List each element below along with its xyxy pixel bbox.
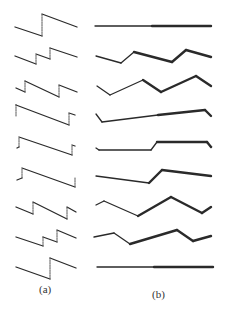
caption-a: (a) [39, 283, 51, 295]
waveform-a-row-6 [17, 168, 75, 187]
thin-segment [96, 201, 104, 205]
thin-segment [114, 233, 130, 244]
thick-segment [177, 230, 193, 241]
thin-segment [110, 80, 143, 95]
solid-segment [57, 230, 76, 238]
solid-segment [67, 207, 76, 212]
thick-segment [172, 50, 186, 62]
polyline-b-row-6 [96, 170, 211, 183]
polyline-b-row-4 [96, 110, 211, 122]
thin-segment [96, 56, 121, 63]
thin-segment [121, 52, 134, 63]
thick-segment [171, 197, 202, 213]
panel-a-waveforms [15, 14, 77, 279]
thick-segment [158, 110, 205, 115]
solid-segment [25, 81, 59, 97]
solid-segment [33, 202, 67, 219]
thick-segment [186, 50, 211, 57]
thick-segment [130, 230, 177, 244]
polyline-b-row-8 [94, 230, 211, 244]
thick-segment [196, 76, 211, 86]
solid-segment [50, 48, 77, 57]
solid-segment [17, 178, 22, 180]
waveform-a-row-7 [16, 202, 76, 219]
polyline-b-row-3 [97, 76, 211, 95]
solid-segment [22, 168, 75, 187]
solid-segment [15, 56, 36, 64]
waveform-a-row-3 [16, 81, 77, 97]
solid-segment [15, 27, 42, 36]
solid-segment [43, 237, 57, 242]
thick-segment [138, 197, 171, 216]
thick-segment [205, 110, 211, 116]
thin-segment [102, 115, 158, 122]
thick-segment [161, 76, 196, 92]
panel-b-polylines [94, 26, 213, 267]
waveform-a-row-8 [16, 230, 76, 246]
polyline-b-row-7 [96, 197, 211, 216]
solid-segment [42, 14, 77, 27]
waveform-a-row-9 [16, 258, 76, 279]
thick-segment [149, 170, 162, 183]
thick-segment [207, 142, 211, 147]
thick-segment [162, 170, 211, 176]
thick-segment [143, 80, 161, 92]
polyline-b-row-5 [96, 142, 211, 150]
waveform-a-row-2 [15, 48, 77, 64]
thin-segment [96, 114, 102, 122]
thin-segment [94, 233, 114, 237]
solid-segment [16, 207, 33, 214]
solid-segment [69, 113, 75, 115]
caption-b: (b) [152, 288, 165, 300]
solid-segment [16, 88, 25, 92]
solid-segment [36, 54, 50, 59]
thick-segment [193, 236, 211, 241]
solid-segment [16, 237, 43, 246]
solid-segment [50, 258, 76, 268]
thin-segment [97, 86, 110, 95]
polyline-b-row-2 [96, 50, 211, 63]
solid-segment [59, 85, 77, 92]
thin-segment [96, 176, 149, 183]
thick-segment [202, 207, 211, 213]
solid-segment [16, 267, 50, 279]
figure-canvas [0, 0, 225, 313]
thick-segment [134, 52, 172, 62]
thin-segment [104, 201, 138, 216]
thin-segment [151, 142, 157, 150]
solid-segment [19, 137, 72, 155]
waveform-a-row-1 [15, 14, 77, 36]
solid-segment [16, 105, 69, 125]
waveform-a-row-5 [17, 137, 75, 155]
waveform-a-row-4 [16, 104, 75, 125]
